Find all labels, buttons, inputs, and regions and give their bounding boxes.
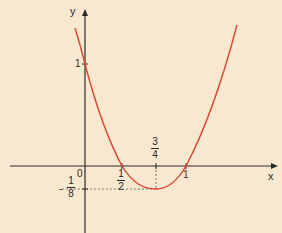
neg-eighth-numerator: 1 [68,176,74,186]
x-tick-label-three-quarter: 3 4 [151,137,159,160]
three-quarter-numerator: 3 [152,137,158,147]
x-axis-arrow-icon [271,163,278,169]
y-axis-label: y [70,6,76,17]
x-tick-label-half: 1 2 [117,169,125,192]
y-tick-label-1: 1 [75,59,81,69]
half-numerator: 1 [118,169,124,179]
neg-eighth-denominator: 8 [68,189,74,199]
half-denominator: 2 [118,182,124,192]
three-quarter-denominator: 4 [152,150,158,160]
neg-sign: - [59,184,62,194]
x-tick-label-1: 1 [183,170,189,180]
y-tick-label-neg-eighth: 1 8 [67,176,75,199]
plot-area [0,0,282,233]
x-axis-label: x [268,171,274,182]
origin-label: 0 [77,169,83,179]
y-axis-arrow-icon [82,9,88,16]
